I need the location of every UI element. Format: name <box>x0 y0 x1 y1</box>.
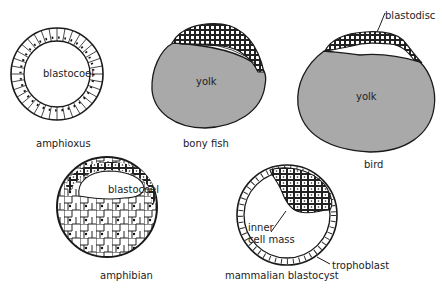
caption-bird: bird <box>364 159 383 170</box>
label-amphibian-blastocoel: blastocoel <box>108 184 159 195</box>
caption-mammalian-blastocyst: mammalian blastocyst <box>225 270 339 281</box>
caption-bony-fish: bony fish <box>183 138 229 149</box>
label-bird-yolk: yolk <box>356 91 377 102</box>
mammalian-blastocyst <box>237 165 337 265</box>
caption-amphibian: amphibian <box>100 270 153 281</box>
label-amphioxus-blastocoel: blastocoel <box>43 68 94 79</box>
label-cell-mass: cell mass <box>248 234 295 245</box>
label-inner: inner <box>248 222 274 233</box>
label-trophoblast: trophoblast <box>332 260 389 271</box>
amphibian-blastula <box>57 157 157 257</box>
caption-amphioxus: amphioxus <box>36 138 91 149</box>
label-blastodisc: blastodisc <box>385 10 435 21</box>
bird-blastula <box>298 13 435 152</box>
label-bony-fish-yolk: yolk <box>196 76 217 87</box>
